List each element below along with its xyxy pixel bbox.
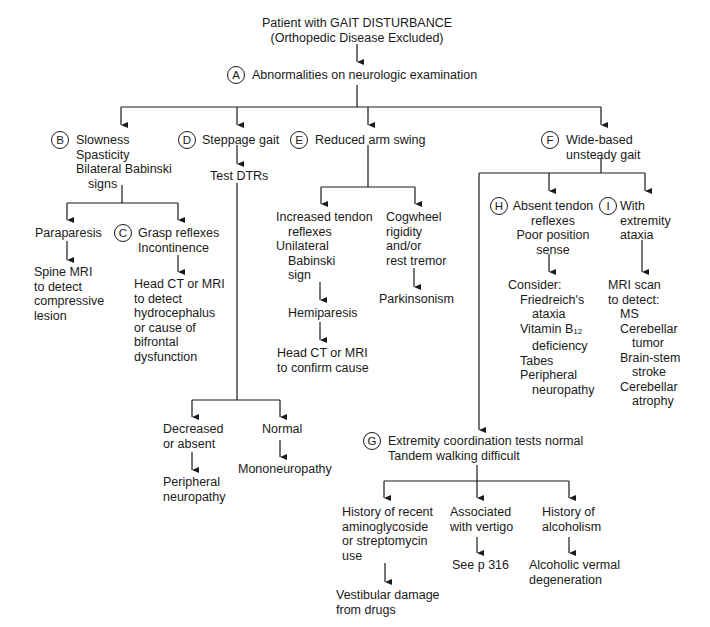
badge-f: F — [541, 131, 559, 149]
h-line-3: Poor position — [512, 228, 594, 243]
mri-title-2: to detect: — [608, 293, 680, 308]
e-head-ct-line-2: to confirm cause — [277, 361, 369, 376]
badge-i: I — [599, 197, 617, 215]
g-line-2: Tandem walking difficult — [388, 449, 583, 464]
node-h: Absent tendon reflexes Poor position sen… — [512, 199, 594, 257]
drug-line-1: History of recent — [342, 505, 433, 520]
root-subtitle: (Orthopedic Disease Excluded) — [262, 31, 452, 46]
node-parkinsonism: Parkinsonism — [379, 292, 454, 307]
consider-item-1b: ataxia — [508, 307, 595, 322]
e-left-line-1: Increased tendon — [276, 210, 373, 225]
node-head-ct-hydrocephalus: Head CT or MRI to detect hydrocephalus o… — [134, 277, 225, 364]
e-head-ct-line-1: Head CT or MRI — [277, 346, 369, 361]
consider-item-1: Friedreich's — [508, 293, 595, 308]
spine-mri-line-1: Spine MRI — [34, 265, 104, 280]
decreased-line-1: Decreased — [163, 422, 223, 437]
b-line-3: Bilateral Babinski — [76, 162, 172, 177]
e-left-line-5: sign — [276, 268, 373, 283]
mri-item-2: Cerebellar — [608, 322, 680, 337]
mri-item-3b: stroke — [608, 365, 680, 380]
f-line-2: unsteady gait — [566, 148, 640, 163]
consider-title: Consider: — [508, 278, 595, 293]
badge-e: E — [290, 131, 308, 149]
node-spine-mri: Spine MRI to detect compressive lesion — [34, 265, 104, 323]
h-line-4: sense — [512, 243, 594, 258]
node-b: Slowness Spasticity Bilateral Babinski s… — [76, 133, 172, 191]
spine-mri-line-3: compressive — [34, 294, 104, 309]
node-hemiparesis: Hemiparesis — [288, 306, 357, 321]
node-see-page: See p 316 — [452, 558, 509, 573]
e-right-line-1: Cogwheel — [386, 210, 446, 225]
h-line-2: reflexes — [512, 214, 594, 229]
node-increased-tendon-reflexes: Increased tendon reflexes Unilateral Bab… — [276, 210, 373, 283]
spine-mri-line-2: to detect — [34, 280, 104, 295]
b-line-2: Spasticity — [76, 148, 172, 163]
c-line-1: Grasp reflexes — [138, 226, 219, 241]
c-result-line-4: or cause of — [134, 321, 225, 336]
node-decreased-absent: Decreased or absent — [163, 422, 223, 451]
consider-item-4: Peripheral — [508, 368, 595, 383]
node-e: Reduced arm swing — [315, 133, 425, 148]
mri-item-3: Brain-stem — [608, 351, 680, 366]
node-normal: Normal — [262, 422, 302, 437]
mri-item-1: MS — [608, 307, 680, 322]
e-left-line-3: Unilateral — [276, 239, 373, 254]
badge-h: H — [490, 197, 508, 215]
decreased-line-2: or absent — [163, 437, 223, 452]
node-g: Extremity coordination tests normal Tand… — [388, 434, 583, 463]
vitamin-b-text: Vitamin B — [520, 322, 573, 336]
peripheral-line-2: neuropathy — [163, 490, 226, 505]
vermal-line-1: Alcoholic vermal — [529, 558, 620, 573]
node-alcohol-history: History of alcoholism — [542, 505, 601, 534]
e-right-line-3: and/or — [386, 239, 446, 254]
node-vermal-degeneration: Alcoholic vermal degeneration — [529, 558, 620, 587]
e-right-line-2: rigidity — [386, 225, 446, 240]
i-line-3: ataxia — [620, 228, 671, 243]
h-line-1: Absent tendon — [512, 199, 594, 214]
c-result-line-2: to detect — [134, 292, 225, 307]
root-title: Patient with GAIT DISTURBANCE — [262, 16, 452, 31]
f-line-1: Wide-based — [566, 133, 640, 148]
vestibular-line-2: from drugs — [336, 603, 440, 618]
i-line-1: With — [620, 199, 671, 214]
node-c: Grasp reflexes Incontinence — [138, 226, 219, 255]
mri-item-4b: atrophy — [608, 394, 680, 409]
mri-item-4: Cerebellar — [608, 380, 680, 395]
e-right-line-4: rest tremor — [386, 254, 446, 269]
consider-item-2b: deficiency — [508, 339, 595, 354]
consider-item-4b: neuropathy — [508, 383, 595, 398]
spine-mri-line-4: lesion — [34, 309, 104, 324]
node-i: With extremity ataxia — [620, 199, 671, 243]
drug-line-3: or streptomycin — [342, 534, 433, 549]
badge-a: A — [227, 66, 245, 84]
node-head-ct-confirm: Head CT or MRI to confirm cause — [277, 346, 369, 375]
g-line-1: Extremity coordination tests normal — [388, 434, 583, 449]
badge-d: D — [178, 131, 196, 149]
node-mononeuropathy: Mononeuropathy — [238, 462, 332, 477]
gait-disturbance-flowchart: Patient with GAIT DISTURBANCE (Orthopedi… — [0, 0, 710, 627]
drug-line-2: aminoglycoside — [342, 520, 433, 535]
c-result-line-1: Head CT or MRI — [134, 277, 225, 292]
consider-item-3: Tabes — [508, 354, 595, 369]
node-drug-history: History of recent aminoglycoside or stre… — [342, 505, 433, 563]
badge-b: B — [51, 131, 69, 149]
consider-item-2: Vitamin B12 — [508, 322, 595, 340]
root-node: Patient with GAIT DISTURBANCE (Orthopedi… — [262, 16, 452, 45]
peripheral-line-1: Peripheral — [163, 475, 226, 490]
node-mri-scan-list: MRI scan to detect: MS Cerebellar tumor … — [608, 278, 680, 409]
node-vestibular-damage: Vestibular damage from drugs — [336, 588, 440, 617]
node-test-dtrs: Test DTRs — [210, 169, 268, 184]
b-line-4: signs — [76, 177, 172, 192]
badge-g: G — [363, 432, 381, 450]
node-paraparesis: Paraparesis — [35, 226, 102, 241]
vertigo-line-1: Associated — [450, 505, 513, 520]
b12-subscript: 12 — [573, 327, 582, 336]
vermal-line-2: degeneration — [529, 573, 620, 588]
node-d: Steppage gait — [202, 133, 279, 148]
node-a: Abnormalities on neurologic examination — [252, 68, 477, 83]
c-line-2: Incontinence — [138, 241, 219, 256]
e-left-line-2: reflexes — [276, 225, 373, 240]
c-result-line-6: dysfunction — [134, 350, 225, 365]
node-peripheral-neuropathy: Peripheral neuropathy — [163, 475, 226, 504]
e-left-line-4: Babinski — [276, 254, 373, 269]
